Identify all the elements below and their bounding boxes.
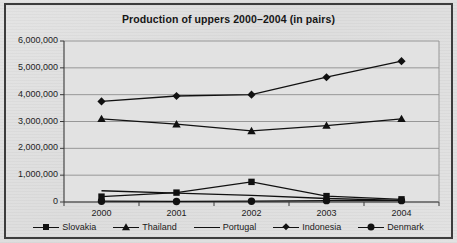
legend-item-denmark[interactable]: Denmark — [358, 222, 424, 232]
legend-label: Slovakia — [62, 222, 96, 232]
legend-item-thailand[interactable]: Thailand — [113, 222, 177, 232]
legend-marker-square-icon — [33, 222, 59, 232]
data-point-marker — [248, 197, 255, 204]
legend-marker-triangle-icon — [113, 222, 139, 232]
legend-marker-circle-icon — [358, 222, 384, 232]
y-axis-label: 2,000,000 — [18, 142, 58, 152]
x-axis-label: 2002 — [227, 208, 277, 218]
y-axis-label: 4,000,000 — [18, 89, 58, 99]
legend-label: Denmark — [387, 222, 424, 232]
data-point-marker — [398, 197, 405, 204]
y-axis-label: 6,000,000 — [18, 35, 58, 45]
y-axis-label: 0 — [53, 196, 58, 206]
legend-item-portugal[interactable]: Portugal — [194, 222, 257, 232]
chart-card: Production of uppers 2000–2004 (in pairs… — [6, 5, 451, 237]
y-axis-label: 1,000,000 — [18, 169, 58, 179]
chart-legend: SlovakiaThailandPortugalIndonesiaDenmark — [6, 222, 451, 232]
legend-marker-none-icon — [194, 222, 220, 232]
data-point-marker — [323, 197, 330, 204]
legend-label: Indonesia — [302, 222, 341, 232]
legend-label: Portugal — [223, 222, 257, 232]
data-point-marker — [98, 197, 105, 204]
x-axis-label: 2001 — [152, 208, 202, 218]
y-axis-label: 5,000,000 — [18, 62, 58, 72]
legend-item-indonesia[interactable]: Indonesia — [273, 222, 341, 232]
legend-item-slovakia[interactable]: Slovakia — [33, 222, 96, 232]
data-point-marker — [248, 179, 254, 185]
data-point-marker — [173, 198, 180, 205]
legend-marker-diamond-icon — [273, 222, 299, 232]
plot-area: 6,000,0005,000,0004,000,0003,000,0002,00… — [6, 5, 451, 237]
legend-label: Thailand — [142, 222, 177, 232]
chart-screenshot: Production of uppers 2000–2004 (in pairs… — [0, 0, 457, 243]
chart-svg — [6, 5, 451, 237]
y-axis-label: 3,000,000 — [18, 116, 58, 126]
x-axis-label: 2000 — [77, 208, 127, 218]
x-axis-label: 2003 — [302, 208, 352, 218]
x-axis-label: 2004 — [377, 208, 427, 218]
